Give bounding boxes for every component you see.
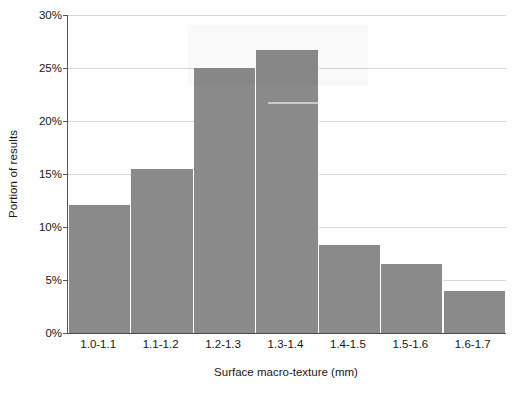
x-axis-title: Surface macro-texture (mm)	[67, 366, 505, 378]
bar	[194, 68, 256, 333]
x-axis-tick-label: 1.2-1.3	[192, 337, 254, 351]
y-axis-tick-label: 30%	[18, 9, 62, 21]
y-axis-tick-label: 10%	[18, 221, 62, 233]
bar	[381, 264, 443, 333]
y-axis-tickmark	[63, 121, 68, 122]
plot-area	[67, 15, 506, 333]
y-axis-tickmark	[63, 68, 68, 69]
y-axis-tick-label: 0%	[18, 327, 62, 339]
y-axis-tick-labels: 0%5%10%15%20%25%30%	[18, 0, 62, 395]
y-axis-tick-label: 20%	[18, 115, 62, 127]
bar-series	[69, 15, 506, 333]
x-axis-tick-labels: 1.0-1.11.1-1.21.2-1.31.3-1.41.4-1.51.5-1…	[67, 337, 505, 355]
bar	[444, 291, 506, 333]
y-axis-tickmark	[63, 174, 68, 175]
bar	[319, 245, 381, 333]
y-axis-tickmark	[63, 280, 68, 281]
x-axis-tick-label: 1.5-1.6	[379, 337, 441, 351]
y-axis-tickmark	[63, 333, 68, 334]
y-axis-tickmark	[63, 15, 68, 16]
x-axis-tick-label: 1.3-1.4	[254, 337, 316, 351]
x-axis-tick-label: 1.1-1.2	[129, 337, 191, 351]
axis-baseline	[68, 333, 506, 334]
bar	[131, 169, 193, 333]
bar-chart: Portion of results 0%5%10%15%20%25%30% 1…	[0, 0, 513, 395]
bar	[256, 50, 318, 333]
x-axis-tick-label: 1.0-1.1	[67, 337, 129, 351]
x-axis-tick-label: 1.6-1.7	[442, 337, 504, 351]
y-axis-tickmark	[63, 227, 68, 228]
y-axis-tick-label: 15%	[18, 168, 62, 180]
bar	[69, 205, 131, 333]
y-axis-tick-label: 5%	[18, 274, 62, 286]
x-axis-tick-label: 1.4-1.5	[317, 337, 379, 351]
y-axis-tick-label: 25%	[18, 62, 62, 74]
